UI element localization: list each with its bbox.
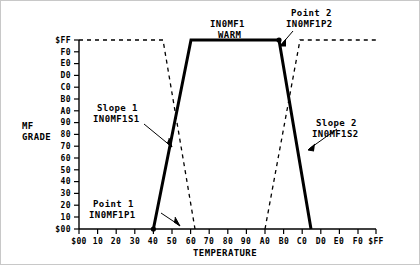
point1-annotation-line1: Point 1 [93,199,134,209]
y-tick-label: 40 [45,177,71,187]
y-tick-label: 60 [45,154,71,164]
warm-annotation-line2: WARM [218,30,241,40]
x-axis-title: TEMPERATURE [193,248,257,258]
y-tick-label: 70 [45,142,71,152]
y-tick-label: 30 [45,189,71,199]
slope1-annotation-line1: Slope 1 [97,103,138,113]
slope1-annotation-line2: IN0MF1S1 [93,114,140,124]
point2-annotation-line1: Point 2 [291,8,332,18]
y-tick-label: $FF [45,36,71,46]
y-tick-label: C0 [45,83,71,93]
point1-annotation-line2: IN0MF1P1 [89,210,136,220]
point1-arrowhead [174,217,180,226]
point2-marker [276,37,281,42]
y-tick-label: B0 [45,95,71,105]
y-tick-label: F0 [45,48,71,58]
point1-marker [151,226,156,231]
slope2-annotation-line1: Slope 2 [316,118,357,128]
point2-annotation-line2: IN0MF1P2 [286,19,333,29]
x-axis-ticks [79,229,376,234]
series-warm-curve [153,40,311,229]
slope2-annotation-line2: IN0MF1S2 [312,129,359,139]
y-tick-label: E0 [45,59,71,69]
y-tick-label: 90 [45,118,71,128]
y-axis-title-line1: MF [22,121,34,131]
y-tick-label: A0 [45,107,71,117]
y-axis-ticks [74,40,79,229]
x-tick-label: $FF [364,237,388,247]
warm-annotation-line1: IN0MF1 [210,19,245,29]
chart-figure: $FF F0 E0 D0 C0 B0 A0 90 80 70 60 50 40 … [0,0,420,265]
y-tick-label: 10 [45,213,71,223]
y-tick-label: D0 [45,71,71,81]
y-tick-label: 50 [45,166,71,176]
slope2-arrowhead [308,144,315,151]
y-tick-label: $00 [45,225,71,235]
y-tick-label: 20 [45,201,71,211]
y-axis-title-line2: GRADE [22,132,51,142]
